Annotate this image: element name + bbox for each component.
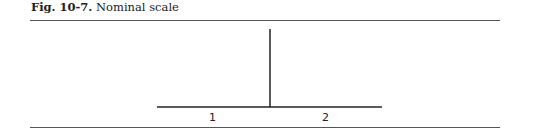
bottom-rule xyxy=(30,127,500,128)
category-label-1: 1 xyxy=(209,112,216,124)
category-label-2: 2 xyxy=(322,112,329,124)
nominal-scale-diagram xyxy=(0,0,534,133)
